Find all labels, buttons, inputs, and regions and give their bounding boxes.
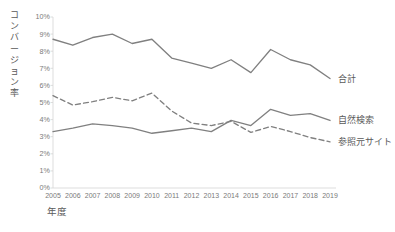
series-label-1: 自然検索 (338, 115, 374, 125)
x-tick-label: 2010 (144, 192, 160, 199)
series-label-0: 合計 (338, 74, 356, 84)
x-tick-label: 2012 (184, 192, 200, 199)
x-tick-label: 2014 (223, 192, 239, 199)
x-axis-title: 年度 (47, 206, 67, 217)
x-tick-label: 2017 (283, 192, 299, 199)
x-tick-label: 2013 (203, 192, 219, 199)
x-tick-label: 2006 (65, 192, 81, 199)
x-tick-label: 2019 (322, 192, 338, 199)
series-label-2: 参照元サイト (338, 137, 392, 147)
x-tick-label: 2005 (45, 192, 61, 199)
conversion-rate-line-chart: コ ン バ ー ジ ョ ン 率 10%9%8%7%6%5%4%3%2%1%0% … (0, 0, 395, 232)
x-tick-label: 2015 (243, 192, 259, 199)
x-tick-label: 2007 (85, 192, 101, 199)
x-axis-tick-labels: 2005200620072008200920102011201220132014… (0, 0, 395, 232)
x-tick-label: 2016 (263, 192, 279, 199)
x-tick-label: 2008 (105, 192, 121, 199)
x-tick-label: 2009 (124, 192, 140, 199)
x-tick-label: 2018 (302, 192, 318, 199)
x-tick-label: 2011 (164, 192, 179, 199)
